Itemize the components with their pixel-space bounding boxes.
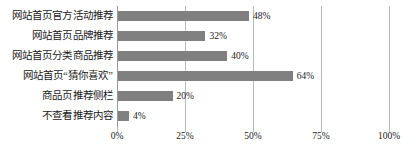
xtick-label-50: 50% xyxy=(244,130,261,142)
xtick-label-25: 25% xyxy=(176,130,193,142)
bar-value-0: 48% xyxy=(253,11,270,21)
bar-value-5: 4% xyxy=(133,111,146,121)
xtick-label-100: 100% xyxy=(378,130,400,142)
bar-group-0: 48% xyxy=(118,11,270,21)
bar-1 xyxy=(118,31,205,41)
xtick-label-0: 0% xyxy=(111,130,124,142)
xtick-label-75: 75% xyxy=(312,130,329,142)
bar-row: 网站首页“猜你喜欢” 64% xyxy=(0,66,416,86)
bar-0 xyxy=(118,11,249,21)
bar-value-2: 40% xyxy=(231,51,248,61)
bar-value-4: 20% xyxy=(177,91,194,101)
bar-row: 网站首页分类商品推荐 40% xyxy=(0,46,416,66)
category-label-1: 网站首页品牌推荐 xyxy=(0,30,113,42)
bar-group-1: 32% xyxy=(118,31,227,41)
category-label-0: 网站首页官方活动推荐 xyxy=(0,10,113,22)
bar-row: 网站首页品牌推荐 32% xyxy=(0,26,416,46)
bar-group-3: 64% xyxy=(118,71,314,81)
bar-group-5: 4% xyxy=(118,111,146,121)
bar-group-4: 20% xyxy=(118,91,194,101)
bar-2 xyxy=(118,51,227,61)
horizontal-bar-chart: 网站首页官方活动推荐 48% 网站首页品牌推荐 32% 网站首页分类商品推荐 4… xyxy=(0,0,416,158)
category-label-5: 不查看推荐内容 xyxy=(0,110,113,122)
bar-row: 网站首页官方活动推荐 48% xyxy=(0,6,416,26)
bar-5 xyxy=(118,111,129,121)
x-axis: 0% 25% 50% 75% 100% xyxy=(0,130,416,148)
bar-row: 不查看推荐内容 4% xyxy=(0,106,416,126)
bar-4 xyxy=(118,91,173,101)
bar-value-1: 32% xyxy=(209,31,226,41)
bar-row: 商品页推荐侧栏 20% xyxy=(0,86,416,106)
bar-group-2: 40% xyxy=(118,51,249,61)
category-label-2: 网站首页分类商品推荐 xyxy=(0,50,113,62)
category-label-4: 商品页推荐侧栏 xyxy=(0,90,113,102)
category-label-3: 网站首页“猜你喜欢” xyxy=(0,70,113,82)
bar-rows: 网站首页官方活动推荐 48% 网站首页品牌推荐 32% 网站首页分类商品推荐 4… xyxy=(0,0,416,127)
bar-3 xyxy=(118,71,293,81)
bar-value-3: 64% xyxy=(297,71,314,81)
